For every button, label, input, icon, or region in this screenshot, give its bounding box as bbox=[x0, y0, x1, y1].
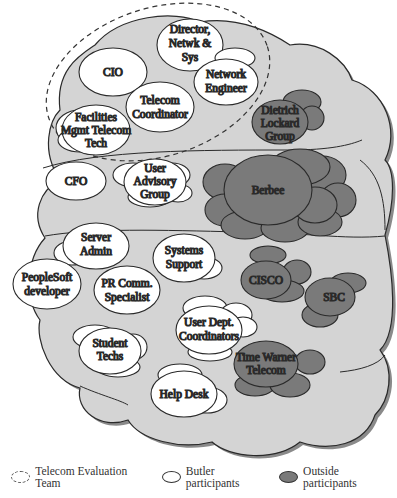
legend-item-team: Telecom Evaluation Team bbox=[11, 465, 150, 489]
svg-text:PR Comm.Specialist: PR Comm.Specialist bbox=[101, 277, 152, 304]
svg-text:SystemsSupport: SystemsSupport bbox=[165, 244, 204, 271]
svg-text:CIO: CIO bbox=[103, 66, 123, 78]
svg-text:NetworkEngineer: NetworkEngineer bbox=[205, 68, 247, 95]
svg-text:CFO: CFO bbox=[65, 175, 87, 187]
svg-text:DietrichLockardGroup: DietrichLockardGroup bbox=[261, 104, 300, 143]
legend-item-butler: Butler participants bbox=[162, 465, 267, 489]
legend-item-outside: Outside participants bbox=[279, 465, 391, 489]
legend-label-outside: Outside participants bbox=[303, 465, 391, 489]
dark-ellipse-icon bbox=[279, 471, 298, 483]
legend-label-butler: Butler participants bbox=[186, 465, 267, 489]
svg-text:Help Desk: Help Desk bbox=[160, 388, 209, 401]
svg-text:CISCO: CISCO bbox=[249, 274, 283, 286]
node-pr-comm-specialist[interactable]: PR Comm.Specialist bbox=[94, 266, 160, 314]
network-diagram: Director,Netwk &Sys CIO NetworkEngineer … bbox=[0, 0, 397, 462]
dashed-ellipse-icon bbox=[11, 471, 30, 483]
node-cfo[interactable]: CFO bbox=[46, 162, 106, 200]
node-telecom-coordinator[interactable]: TelecomCoordinator bbox=[126, 82, 194, 132]
node-peoplesoft-developer[interactable]: PeopleSoftdeveloper bbox=[13, 259, 81, 309]
node-facilities[interactable]: FacilitiesMgmt TelecomTech bbox=[56, 105, 131, 155]
white-ellipse-icon bbox=[162, 471, 181, 483]
legend-label-team: Telecom Evaluation Team bbox=[35, 465, 149, 489]
svg-text:StudentTechs: StudentTechs bbox=[92, 337, 128, 362]
svg-text:Berbee: Berbee bbox=[252, 184, 285, 196]
svg-text:PeopleSoftdeveloper: PeopleSoftdeveloper bbox=[22, 271, 73, 298]
svg-text:SBC: SBC bbox=[323, 291, 345, 303]
legend: Telecom Evaluation Team Butler participa… bbox=[0, 462, 397, 492]
